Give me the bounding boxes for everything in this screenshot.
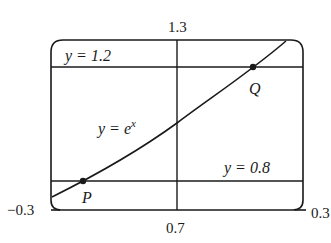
- x-max-label: 0.3: [311, 205, 330, 221]
- x-min-label: −0.3: [7, 202, 34, 218]
- curve-label-base: y = e: [96, 120, 131, 138]
- line-y-1-2-label: y = 1.2: [63, 47, 111, 65]
- point-q-marker: [250, 64, 256, 70]
- curve-label: y = ex: [96, 117, 136, 138]
- curve-label-exponent: x: [130, 117, 136, 129]
- y-min-label: 0.7: [166, 220, 185, 236]
- line-y-0-8-label: y = 0.8: [222, 159, 270, 177]
- point-p-label: P: [81, 189, 92, 206]
- point-p-marker: [80, 178, 86, 184]
- y-max-label: 1.3: [168, 19, 187, 35]
- graph-canvas: 1.3 0.7 −0.3 0.3 y = 1.2 y = 0.8 y = ex …: [0, 0, 331, 243]
- point-q-label: Q: [249, 80, 261, 97]
